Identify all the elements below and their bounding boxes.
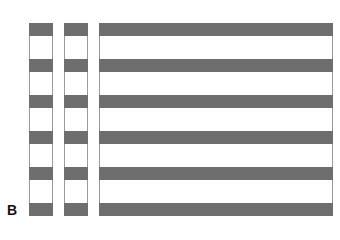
- panel-label: B: [7, 202, 17, 218]
- dark-band: [99, 95, 333, 108]
- dark-band: [99, 131, 333, 144]
- column-1: [29, 23, 53, 216]
- dark-band: [29, 59, 53, 72]
- dark-band: [64, 167, 88, 180]
- dark-band: [29, 203, 53, 216]
- dark-band: [64, 59, 88, 72]
- column-3: [99, 23, 333, 216]
- dark-band: [29, 95, 53, 108]
- dark-band: [99, 23, 333, 36]
- dark-band: [64, 95, 88, 108]
- dark-band: [99, 59, 333, 72]
- dark-band: [64, 23, 88, 36]
- dark-band: [29, 167, 53, 180]
- dark-band: [99, 167, 333, 180]
- dark-band: [99, 203, 333, 216]
- column-2: [64, 23, 88, 216]
- dark-band: [29, 131, 53, 144]
- dark-band: [64, 131, 88, 144]
- dark-band: [29, 23, 53, 36]
- dark-band: [64, 203, 88, 216]
